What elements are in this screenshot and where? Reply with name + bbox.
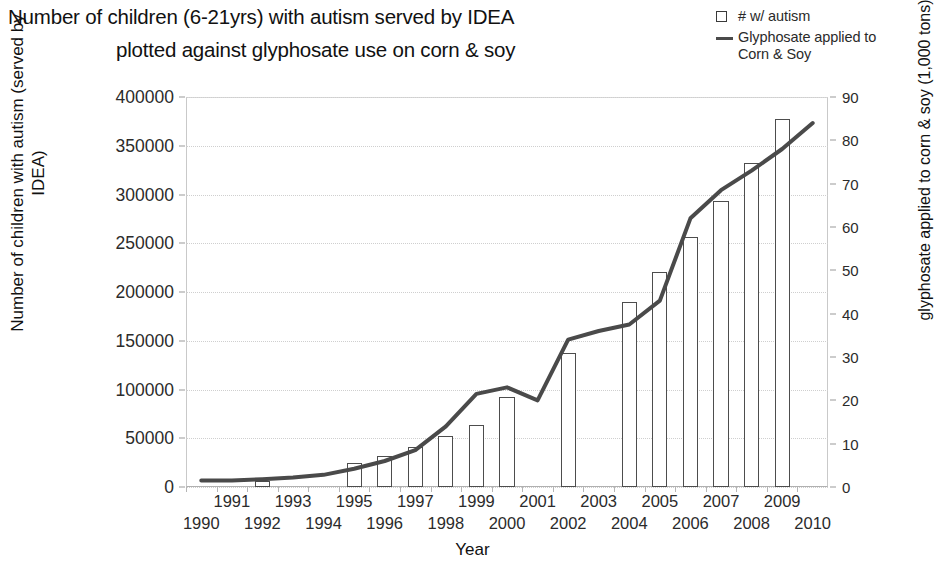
x-axis-tick-label-1999: 1999 — [458, 492, 495, 511]
y-axis-right-tick-label: 40 — [842, 305, 882, 322]
y-axis-right-tick-label: 0 — [842, 479, 882, 496]
y-axis-right-tick-mark — [830, 270, 836, 271]
legend-label-glyphosate-line-1: Glyphosate applied to — [738, 29, 876, 45]
x-axis-tick-label-2002: 2002 — [550, 514, 587, 533]
x-axis-tick-label-1990: 1990 — [183, 514, 220, 533]
legend-swatch-line-icon — [716, 29, 738, 40]
chart-title-line-2: plotted against glyphosate use on corn &… — [8, 37, 698, 63]
legend-label-autism: # w/ autism — [738, 8, 810, 25]
legend-label-glyphosate: Glyphosate applied to Corn & Soy — [738, 29, 876, 63]
y-axis-left-tick-label: 0 — [64, 477, 174, 498]
x-axis-tick-mark — [492, 487, 493, 492]
x-axis-tick-mark — [797, 487, 798, 492]
y-axis-left-tick-label: 200000 — [64, 282, 174, 303]
legend-item-autism: # w/ autism — [716, 8, 941, 25]
x-axis-tick-label-1998: 1998 — [427, 514, 464, 533]
y-axis-right-tick-label: 50 — [842, 262, 882, 279]
chart-title: Number of children (6-21yrs) with autism… — [8, 4, 698, 63]
y-axis-left-tick-label: 100000 — [64, 379, 174, 400]
x-axis-tick-label-1995: 1995 — [336, 492, 373, 511]
x-axis-tick-mark — [706, 487, 707, 492]
y-axis-left-tick-label: 400000 — [64, 87, 174, 108]
x-axis-tick-label-1991: 1991 — [213, 492, 250, 511]
y-axis-left-tick-label: 150000 — [64, 330, 174, 351]
y-axis-left-tick-label: 300000 — [64, 184, 174, 205]
y-axis-right-tick-label: 10 — [842, 435, 882, 452]
x-axis-title: Year — [0, 540, 945, 560]
y-axis-right-tick-mark — [830, 313, 836, 314]
x-axis-tick-label-1992: 1992 — [244, 514, 281, 533]
legend-item-glyphosate: Glyphosate applied to Corn & Soy — [716, 29, 941, 63]
y-axis-right-tick-mark — [830, 487, 836, 488]
x-axis-tick-mark — [736, 487, 737, 492]
x-axis-tick-mark — [217, 487, 218, 492]
y-axis-right-tick-label: 90 — [842, 89, 882, 106]
x-axis-tick-label-2009: 2009 — [764, 492, 801, 511]
y-axis-left-tick-mark — [179, 243, 185, 244]
x-axis-tick-label-1997: 1997 — [397, 492, 434, 511]
y-axis-right-tick-label: 30 — [842, 349, 882, 366]
x-axis-tick-mark — [400, 487, 401, 492]
x-axis-tick-label-2005: 2005 — [641, 492, 678, 511]
x-axis-tick-mark — [614, 487, 615, 492]
y-axis-left-tick-mark — [179, 97, 185, 98]
y-axis-left-tick-mark — [179, 487, 185, 488]
x-axis-tick-mark — [339, 487, 340, 492]
chart-container: Number of children (6-21yrs) with autism… — [0, 0, 945, 574]
x-axis-tick-mark — [522, 487, 523, 492]
chart-legend: # w/ autism Glyphosate applied to Corn &… — [716, 8, 941, 67]
y-axis-right-tick-label: 80 — [842, 132, 882, 149]
x-axis-tick-mark — [461, 487, 462, 492]
y-axis-left-tick-mark — [179, 340, 185, 341]
y-axis-left-tick-label: 350000 — [64, 135, 174, 156]
y-axis-right-tick-mark — [830, 183, 836, 184]
x-axis-tick-mark — [553, 487, 554, 492]
x-axis-tick-label-2000: 2000 — [489, 514, 526, 533]
x-axis-tick-mark — [583, 487, 584, 492]
x-axis-tick-label-2007: 2007 — [703, 492, 740, 511]
glyphosate-line-series — [186, 97, 828, 487]
y-axis-right-tick-mark — [830, 97, 836, 98]
x-axis-tick-label-1994: 1994 — [305, 514, 342, 533]
x-axis-tick-label-1993: 1993 — [275, 492, 312, 511]
gridline — [186, 487, 828, 488]
y-axis-right-tick-mark — [830, 400, 836, 401]
x-axis-tick-label-2003: 2003 — [580, 492, 617, 511]
y-axis-right-tick-mark — [830, 357, 836, 358]
x-axis-tick-label-2010: 2010 — [794, 514, 831, 533]
x-axis-tick-mark — [369, 487, 370, 492]
y-axis-right-tick-label: 60 — [842, 219, 882, 236]
chart-title-line-1: Number of children (6-21yrs) with autism… — [8, 4, 698, 30]
y-axis-right-tick-mark — [830, 140, 836, 141]
y-axis-right-tick-label: 70 — [842, 175, 882, 192]
y-axis-left-tick-mark — [179, 438, 185, 439]
y-axis-left-tick-mark — [179, 194, 185, 195]
y-axis-right-tick-label: 20 — [842, 392, 882, 409]
x-axis-tick-mark — [767, 487, 768, 492]
x-axis-tick-label-2006: 2006 — [672, 514, 709, 533]
x-axis-tick-mark — [645, 487, 646, 492]
glyphosate-line-path — [201, 123, 812, 481]
y-axis-left-tick-mark — [179, 145, 185, 146]
legend-label-glyphosate-line-2: Corn & Soy — [738, 46, 876, 63]
plot-area — [186, 97, 828, 487]
x-axis-tick-mark — [247, 487, 248, 492]
x-axis-tick-label-2001: 2001 — [519, 492, 556, 511]
y-axis-right-title: glyphosate applied to corn & soy (1,000 … — [915, 0, 935, 325]
x-axis-tick-mark — [431, 487, 432, 492]
legend-swatch-open-square-icon — [716, 8, 738, 22]
x-axis-tick-mark — [186, 487, 187, 492]
y-axis-left-tick-mark — [179, 389, 185, 390]
y-axis-left-tick-mark — [179, 292, 185, 293]
x-axis-tick-mark — [308, 487, 309, 492]
y-axis-right-tick-mark — [830, 227, 836, 228]
y-axis-left-tick-label: 50000 — [64, 428, 174, 449]
x-axis-tick-label-1996: 1996 — [366, 514, 403, 533]
x-axis-tick-label-2008: 2008 — [733, 514, 770, 533]
y-axis-left-tick-label: 250000 — [64, 233, 174, 254]
x-axis-tick-mark — [278, 487, 279, 492]
y-axis-left-title: Number of children with autism (served b… — [7, 8, 49, 338]
x-axis-tick-mark — [675, 487, 676, 492]
y-axis-right-tick-mark — [830, 443, 836, 444]
x-axis-tick-label-2004: 2004 — [611, 514, 648, 533]
